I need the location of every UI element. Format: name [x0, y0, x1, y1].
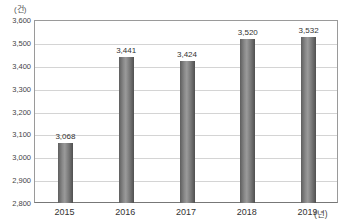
x-tick-label: 2017: [176, 207, 196, 217]
value-label: 3,068: [55, 132, 75, 141]
x-tick-label: 2018: [237, 207, 257, 217]
y-tick-label: 3,000: [12, 153, 31, 162]
y-tick-label: 3,200: [12, 107, 31, 116]
value-label: 3,441: [116, 46, 136, 55]
value-label: 3,424: [177, 50, 197, 59]
y-tick-label: 3,300: [12, 84, 31, 93]
bar-2018: [240, 39, 255, 203]
value-label: 3,520: [238, 28, 258, 37]
y-tick-label: 2,800: [12, 199, 31, 208]
x-tick-label: 2016: [115, 207, 135, 217]
bar-2015: [58, 143, 73, 203]
y-tick-label: 3,400: [12, 61, 31, 70]
y-tick-label: 3,100: [12, 130, 31, 139]
x-axis-unit: (년): [314, 207, 328, 219]
value-label: 3,532: [299, 26, 319, 35]
plot-area: 3,0683,4413,4243,5203,532: [34, 20, 338, 203]
y-tick-label: 3,600: [12, 16, 31, 25]
y-tick-label: 3,500: [12, 38, 31, 47]
bar-2016: [119, 57, 134, 203]
x-tick-label: 2015: [54, 207, 74, 217]
y-tick-label: 2,900: [12, 176, 31, 185]
bar-2019: [301, 37, 316, 203]
bar-2017: [180, 61, 195, 203]
gridline: [35, 44, 337, 45]
y-axis-unit: (건): [14, 3, 26, 14]
